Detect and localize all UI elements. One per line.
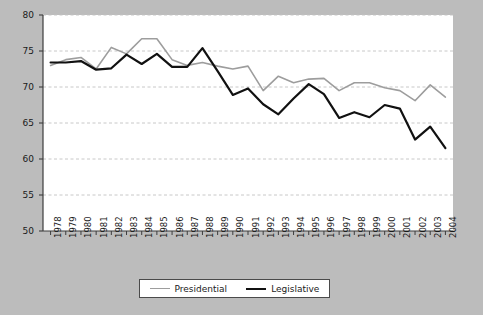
x-tick-label: 1983 <box>130 216 138 238</box>
presidential-line-swatch <box>150 288 170 289</box>
legend-item-presidential: Presidential <box>150 284 228 294</box>
chart-figure: 50556065707580 1978197919801981198219831… <box>0 0 483 315</box>
x-tick-label: 2000 <box>388 216 396 238</box>
x-tick-label: 1988 <box>206 216 214 238</box>
y-tick-label: 65 <box>12 119 34 128</box>
legend-label-presidential: Presidential <box>175 284 228 294</box>
y-tick-label: 55 <box>12 191 34 200</box>
x-tick-label: 1986 <box>176 216 184 238</box>
x-tick-label: 1991 <box>252 216 260 238</box>
x-tick-label: 1999 <box>373 216 381 238</box>
x-tick-label: 2004 <box>449 216 457 238</box>
gridlines-group <box>43 15 453 195</box>
x-tick-label: 1996 <box>327 216 335 238</box>
x-tick-label: 1979 <box>69 216 77 238</box>
x-tick-label: 1990 <box>236 216 244 238</box>
x-tick-label: 1997 <box>343 216 351 238</box>
x-tick-label: 1984 <box>145 216 153 238</box>
x-tick-label: 1992 <box>267 216 275 238</box>
x-tick-label: 2002 <box>419 216 427 238</box>
x-tick-label: 1998 <box>358 216 366 238</box>
x-tick-label: 1989 <box>221 216 229 238</box>
legend-label-legislative: Legislative <box>271 284 319 294</box>
y-tick-label: 50 <box>12 227 34 236</box>
x-tick-label: 1993 <box>282 216 290 238</box>
y-tick-label: 60 <box>12 155 34 164</box>
y-tick-label: 80 <box>12 11 34 20</box>
legislative-line-swatch <box>246 288 266 290</box>
x-tick-label: 1987 <box>191 216 199 238</box>
x-tick-label: 1994 <box>297 216 305 238</box>
chart-canvas <box>0 0 483 315</box>
x-tick-label: 1978 <box>54 216 62 238</box>
chart-legend: Presidential Legislative <box>139 279 330 298</box>
legend-item-legislative: Legislative <box>246 284 319 294</box>
x-tick-label: 1980 <box>84 216 92 238</box>
x-tick-label: 1995 <box>312 216 320 238</box>
data-series-group <box>51 39 446 148</box>
x-tick-label: 1982 <box>115 216 123 238</box>
x-tick-label: 2003 <box>434 216 442 238</box>
x-tick-label: 1985 <box>160 216 168 238</box>
x-tick-label: 1981 <box>100 216 108 238</box>
x-tick-label: 2001 <box>403 216 411 238</box>
series-line-presidential <box>51 39 446 101</box>
y-tick-label: 75 <box>12 47 34 56</box>
series-line-legislative <box>51 48 446 148</box>
y-tick-label: 70 <box>12 83 34 92</box>
